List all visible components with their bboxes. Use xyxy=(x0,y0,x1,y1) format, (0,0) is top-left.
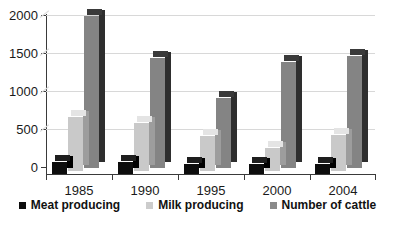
bar-1990-meat-producing xyxy=(118,162,133,174)
bar-2004-meat-producing xyxy=(315,164,330,174)
bar-1985-meat-producing xyxy=(52,162,67,174)
bar-top-face xyxy=(284,55,299,61)
legend-item-meat-producing: Meat producing xyxy=(19,198,120,212)
bar-top-face xyxy=(55,155,70,161)
bar-top-face xyxy=(203,129,218,135)
bar-front-face xyxy=(52,162,67,174)
y-axis-tick-label: 2000 xyxy=(9,9,38,22)
bar-side-face xyxy=(346,129,352,165)
gridline-depth-edge xyxy=(40,48,55,63)
bar-top-face xyxy=(71,110,86,116)
bar-side-face xyxy=(296,56,302,162)
bar-front-face xyxy=(118,162,133,174)
bar-side-face xyxy=(99,10,105,162)
bar-side-face xyxy=(362,50,368,162)
bar-top-face xyxy=(268,141,283,147)
legend-item-label: Milk producing xyxy=(158,198,243,212)
legend-swatch-icon xyxy=(146,202,153,209)
y-axis-tick-label: 1500 xyxy=(9,47,38,60)
y-axis-tick-label: 500 xyxy=(16,123,38,136)
bar-top-face xyxy=(121,155,136,161)
y-axis-tick-label: 0 xyxy=(31,161,38,174)
bar-side-face xyxy=(149,117,155,165)
bar-top-face xyxy=(334,128,349,134)
plot-area xyxy=(46,14,375,174)
x-axis-tick xyxy=(178,175,179,180)
legend-item-number-of-cattle: Number of cattle xyxy=(270,198,377,212)
bar-side-face xyxy=(165,52,171,162)
bar-2000-meat-producing xyxy=(249,164,264,174)
bar-top-face xyxy=(350,49,365,55)
bar-front-face xyxy=(184,164,199,174)
legend-item-label: Number of cattle xyxy=(282,198,377,212)
legend-swatch-icon xyxy=(19,202,26,209)
bar-side-face xyxy=(83,111,89,165)
bar-top-face xyxy=(187,157,202,163)
gridline-depth-edge xyxy=(40,124,55,139)
bar-side-face xyxy=(231,92,237,162)
legend-swatch-icon xyxy=(270,202,277,209)
legend-item-label: Meat producing xyxy=(31,198,120,212)
bar-chart-figure: 2000 1500 1000 500 0 1985 1990 1995 xyxy=(0,0,395,225)
gridline-depth-edge xyxy=(40,86,55,101)
bar-top-face xyxy=(137,116,152,122)
bar-1995-meat-producing xyxy=(184,164,199,174)
gridline-depth-edge xyxy=(40,10,55,25)
x-axis-category-label: 2004 xyxy=(313,183,373,198)
bar-front-face xyxy=(315,164,330,174)
bar-side-face xyxy=(215,130,221,165)
x-axis-category-label: 1985 xyxy=(49,183,109,198)
x-axis-tick xyxy=(112,175,113,180)
y-axis-tick-label: 1000 xyxy=(9,85,38,98)
x-axis-tick xyxy=(46,175,47,180)
x-axis-tick xyxy=(375,175,376,180)
x-axis-category-label: 2000 xyxy=(247,183,307,198)
x-axis-tick xyxy=(244,175,245,180)
x-axis-tick xyxy=(310,175,311,180)
x-axis-category-label: 1990 xyxy=(115,183,175,198)
legend-item-milk-producing: Milk producing xyxy=(146,198,243,212)
bar-top-face xyxy=(153,51,168,57)
x-axis-category-label: 1995 xyxy=(181,183,241,198)
chart-legend: Meat producing Milk producing Number of … xyxy=(0,198,395,212)
bar-top-face xyxy=(318,157,333,163)
x-axis-line xyxy=(46,174,376,175)
bar-front-face xyxy=(249,164,264,174)
bar-top-face xyxy=(252,157,267,163)
bar-top-face xyxy=(87,9,102,15)
bar-top-face xyxy=(219,91,234,97)
